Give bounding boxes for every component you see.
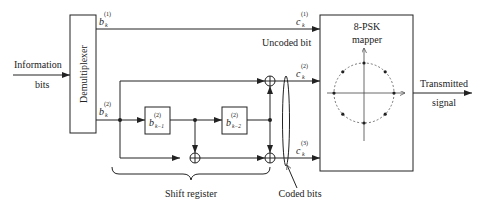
svg-text:(2): (2) [231,112,238,119]
svg-text:b: b [99,16,104,27]
shift-register-brace [112,167,270,180]
svg-text:(2): (2) [154,112,161,119]
svg-text:k: k [302,151,305,157]
b2-label: b k (2) [99,101,111,118]
mapper-label-line2: mapper [352,34,383,45]
input-label-line1: Information [14,59,62,70]
junction-dot [118,118,122,122]
svg-text:(1): (1) [104,11,111,18]
input-label-line2: bits [35,79,50,90]
svg-text:k−2: k−2 [232,123,241,129]
xor-2-icon [265,153,275,163]
svg-text:c: c [296,145,301,156]
svg-text:b: b [149,117,154,128]
coded-bits-ellipse [283,76,290,166]
svg-text:(3): (3) [301,140,308,147]
svg-text:k−1: k−1 [155,123,164,129]
xor-mid-icon [190,153,200,163]
svg-text:c: c [296,16,301,27]
output-label-line1: Transmitted [420,78,468,89]
c1-label: c k (1) [296,11,308,28]
svg-text:c: c [296,68,301,79]
demultiplexer-label: Demultiplexer [78,44,89,102]
uncoded-bit-label: Uncoded bit [262,37,311,48]
svg-text:k: k [302,22,305,28]
svg-text:(1): (1) [301,11,308,18]
svg-text:k: k [105,112,108,118]
svg-text:(2): (2) [301,63,308,70]
svg-text:k: k [105,22,108,28]
diagram-canvas: Information bits Demultiplexer b k (1) b… [0,0,479,209]
svg-text:b: b [99,106,104,117]
shift-register-label: Shift register [165,188,218,199]
c3-label: c k (3) [296,140,308,157]
junction-dot [268,118,272,122]
coded-bits-label: Coded bits [278,188,321,199]
svg-text:(2): (2) [104,101,111,108]
xor-1-icon [265,76,275,86]
c2-label: c k (2) [296,63,308,80]
svg-text:b: b [226,117,231,128]
b1-label: b k (1) [99,11,111,28]
svg-text:k: k [302,74,305,80]
junction-dot [193,118,197,122]
output-label-line2: signal [432,97,456,108]
mapper-label-line1: 8-PSK [354,21,381,32]
coded-bits-pointer [287,165,297,188]
